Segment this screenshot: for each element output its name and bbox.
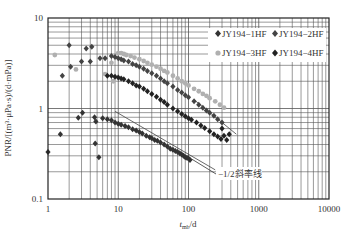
legend-item-1hf: JY194−1HF	[215, 29, 267, 39]
data-point	[79, 59, 84, 65]
series-1	[45, 110, 192, 163]
x-axis-label-unit: /d	[190, 219, 198, 229]
data-point	[171, 73, 176, 78]
x-tick-label: 1	[46, 204, 51, 214]
svg-text:JY194−1HF: JY194−1HF	[222, 29, 267, 39]
x-axis-label: tmb/d	[179, 219, 197, 230]
y-axis-label: PNR/[(m³·μPa·s)/(d·mPa)]	[3, 59, 13, 156]
data-point	[149, 91, 154, 97]
data-point	[219, 126, 224, 132]
data-point	[224, 137, 229, 143]
legend-item-2hf: JY194−2HF	[272, 29, 324, 39]
y-axis-ticks: 0.1110	[32, 13, 44, 204]
data-point	[88, 59, 93, 65]
data-point	[213, 99, 218, 104]
data-point	[186, 83, 191, 88]
data-point	[196, 89, 201, 94]
data-point	[211, 113, 216, 119]
x-tick-label: 1000	[250, 204, 269, 214]
data-point	[175, 108, 180, 114]
data-point	[67, 42, 72, 48]
data-point	[80, 110, 85, 116]
data-point	[124, 53, 129, 58]
data-point	[175, 87, 180, 93]
data-point	[68, 64, 73, 70]
data-point	[191, 98, 196, 104]
data-points	[45, 42, 231, 163]
svg-text:JY194−3HF: JY194−3HF	[222, 48, 267, 58]
data-point	[196, 102, 201, 108]
annotation-text: −1/2斜率线	[218, 168, 262, 179]
circle-marker-icon	[215, 50, 220, 55]
data-point	[100, 115, 105, 121]
data-point	[145, 60, 150, 65]
data-point	[76, 115, 81, 121]
legend-item-3hf: JY194−3HF	[215, 48, 266, 58]
data-point	[219, 120, 224, 126]
data-point	[52, 53, 57, 58]
slope-reference-line	[115, 111, 215, 169]
data-point	[192, 86, 197, 91]
data-point	[218, 102, 223, 107]
data-point	[84, 46, 89, 52]
x-axis-label-sub: mb	[182, 224, 190, 230]
data-point	[207, 128, 212, 134]
data-point	[154, 73, 159, 79]
y-tick-label: 10	[34, 13, 44, 23]
data-point	[137, 57, 142, 62]
data-point	[97, 55, 102, 61]
data-point	[149, 62, 154, 67]
data-point	[132, 55, 137, 60]
data-point	[175, 76, 180, 81]
data-point	[149, 70, 154, 76]
y-tick-label: 0.1	[32, 194, 43, 204]
svg-text:JY194−4HF: JY194−4HF	[279, 48, 324, 58]
data-point	[89, 44, 94, 50]
data-point	[58, 131, 63, 137]
x-tick-label: 100	[182, 204, 196, 214]
data-point	[154, 64, 159, 69]
svg-text:JY194−2HF: JY194−2HF	[279, 29, 324, 39]
data-point	[207, 96, 212, 101]
data-point	[170, 84, 175, 90]
y-tick-label: 1	[39, 104, 44, 114]
x-axis-ticks: 110100100010000	[46, 204, 341, 214]
pnr-log-log-chart: 110100100010000 0.1110 PNR/[(m³·μPa·s)/(…	[0, 0, 352, 237]
data-point	[194, 120, 199, 126]
data-point	[60, 73, 65, 79]
x-tick-label: 10	[114, 204, 124, 214]
data-point	[103, 55, 108, 61]
legend: JY194−1HF JY194−2HF JY194−3HF JY194−4HF	[208, 28, 326, 62]
data-point	[154, 94, 159, 100]
x-tick-label: 10000	[318, 204, 341, 214]
data-point	[74, 67, 79, 72]
data-point	[109, 60, 114, 65]
data-point	[165, 70, 170, 75]
data-point	[222, 105, 227, 110]
legend-item-4hf: JY194−4HF	[272, 48, 324, 58]
data-point	[111, 79, 116, 84]
data-point	[170, 106, 175, 112]
